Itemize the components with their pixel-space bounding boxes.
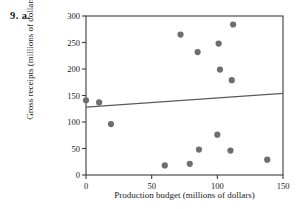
y-tick-label: 50 bbox=[72, 144, 81, 154]
x-tick-label: 100 bbox=[211, 181, 224, 191]
data-points bbox=[83, 21, 270, 168]
data-point bbox=[83, 97, 89, 103]
x-tick-label: 150 bbox=[277, 181, 290, 191]
trend-line bbox=[86, 93, 283, 107]
data-point bbox=[264, 157, 270, 163]
figure-container: 9. a. Gross receipts (millions of dollar… bbox=[0, 0, 305, 209]
y-tick-label: 100 bbox=[67, 117, 80, 127]
y-tick-label: 150 bbox=[67, 91, 80, 101]
x-tick-label: 0 bbox=[84, 181, 88, 191]
data-point bbox=[217, 66, 223, 72]
y-tick-label: 250 bbox=[67, 38, 80, 48]
data-point bbox=[216, 40, 222, 46]
data-point bbox=[187, 161, 193, 167]
y-tick-label: 300 bbox=[67, 11, 80, 21]
data-point bbox=[230, 21, 236, 27]
data-point bbox=[162, 162, 168, 168]
data-point bbox=[96, 99, 102, 105]
scatter-plot: 050100150200250300 050100150 bbox=[0, 0, 305, 209]
data-point bbox=[229, 77, 235, 83]
regression-line bbox=[86, 93, 283, 107]
x-tick-label: 50 bbox=[147, 181, 156, 191]
x-axis-ticks: 050100150 bbox=[84, 175, 290, 191]
data-point bbox=[177, 31, 183, 37]
data-point bbox=[214, 132, 220, 138]
y-tick-label: 200 bbox=[67, 64, 80, 74]
data-point bbox=[227, 148, 233, 154]
y-axis-ticks: 050100150200250300 bbox=[67, 11, 86, 180]
data-point bbox=[195, 49, 201, 55]
data-point bbox=[108, 121, 114, 127]
y-tick-label: 0 bbox=[76, 170, 80, 180]
data-point bbox=[196, 146, 202, 152]
